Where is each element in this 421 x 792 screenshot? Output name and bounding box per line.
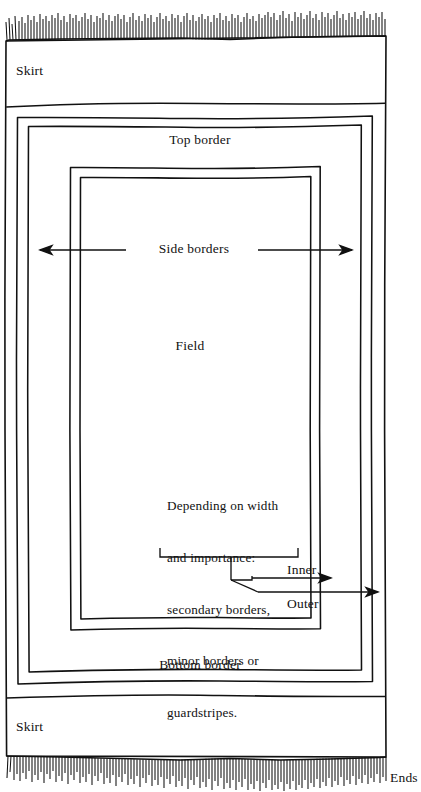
label-top-border: Top border <box>169 133 230 147</box>
guardstripe-note-line-1: Depending on width <box>167 497 278 514</box>
label-ends: Ends <box>390 771 418 785</box>
fringe-bottom-strands <box>7 756 386 791</box>
label-bottom-border: Bottom border <box>159 658 241 672</box>
rug-anatomy-diagram: Skirt Top border Side borders Field Depe… <box>0 0 421 792</box>
label-outer: Outer <box>287 597 319 611</box>
guardstripe-note: Depending on width and importance: secon… <box>167 463 278 755</box>
label-skirt-top: Skirt <box>16 64 43 78</box>
label-field: Field <box>176 339 205 353</box>
ends-fringe-bottom-group <box>7 756 386 791</box>
guardstripe-note-line-5: guardstripes. <box>167 704 278 721</box>
label-side-borders: Side borders <box>159 242 229 256</box>
fringe-top-strands <box>6 11 385 40</box>
guardstripe-note-line-3: secondary borders, <box>167 601 278 618</box>
label-inner: Inner <box>287 563 316 577</box>
skirt-top-separator <box>6 103 385 107</box>
label-skirt-bottom: Skirt <box>16 720 43 734</box>
guardstripe-note-line-2: and importance: <box>167 549 278 566</box>
